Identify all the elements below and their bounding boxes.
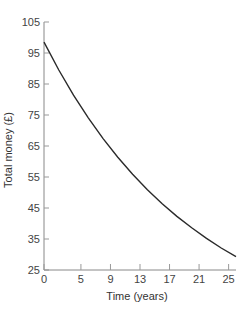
y-tick-label: 105 [22, 16, 40, 28]
x-axis: 05913172125 [41, 264, 236, 285]
y-axis-label: Total money (£) [2, 112, 14, 188]
y-tick-label: 85 [28, 78, 40, 90]
x-tick-label: 25 [222, 273, 234, 285]
y-axis: 2535455565758595105 [22, 16, 49, 276]
x-tick-label: 5 [78, 273, 84, 285]
y-tick-label: 55 [28, 171, 40, 183]
line-chart: 2535455565758595105 05913172125 Time (ye… [0, 0, 250, 314]
x-tick-label: 0 [41, 273, 47, 285]
x-tick-label: 13 [134, 273, 146, 285]
x-axis-label: Time (years) [106, 290, 167, 302]
y-tick-label: 25 [28, 264, 40, 276]
y-tick-label: 35 [28, 233, 40, 245]
y-tick-label: 65 [28, 140, 40, 152]
total-money-line [44, 42, 236, 257]
y-tick-label: 95 [28, 47, 40, 59]
x-tick-label: 9 [107, 273, 113, 285]
x-tick-label: 17 [163, 273, 175, 285]
y-tick-label: 75 [28, 109, 40, 121]
y-tick-label: 45 [28, 202, 40, 214]
x-tick-label: 21 [193, 273, 205, 285]
